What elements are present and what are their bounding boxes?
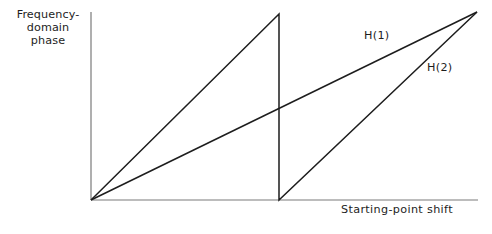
y-axis-label-line-1: Frequency- [17, 8, 80, 21]
x-axis-label: Starting-point shift [341, 203, 453, 216]
figure-container: Frequency-domainphase Starting-point shi… [0, 0, 492, 234]
y-axis-label-line-2: domain [27, 21, 70, 34]
curve-h1 [91, 12, 477, 200]
curve-label-h2: H(2) [427, 61, 452, 74]
curve-label-h1: H(1) [364, 29, 389, 42]
y-axis-label-line-3: phase [31, 34, 65, 47]
y-axis-label: Frequency-domainphase [8, 8, 88, 48]
